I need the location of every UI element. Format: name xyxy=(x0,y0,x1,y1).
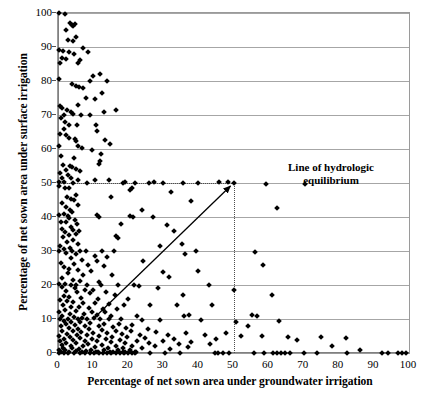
data-point xyxy=(150,214,156,220)
x-tick-label: 10 xyxy=(72,359,112,370)
data-point xyxy=(80,46,86,52)
data-point xyxy=(189,339,195,345)
data-point xyxy=(220,350,226,356)
data-point xyxy=(329,343,335,349)
y-tick-mark xyxy=(52,46,56,47)
data-point xyxy=(198,318,204,324)
y-tick-label: 90 xyxy=(22,41,52,52)
data-point xyxy=(116,235,122,241)
data-point xyxy=(91,315,97,321)
data-point xyxy=(165,332,171,338)
data-point xyxy=(79,257,85,263)
data-point xyxy=(63,250,69,256)
data-point xyxy=(104,254,110,260)
data-point xyxy=(101,109,107,115)
data-point xyxy=(171,336,177,342)
data-point xyxy=(403,350,409,356)
data-point xyxy=(142,335,148,341)
data-point xyxy=(73,231,79,237)
x-tick-label: 20 xyxy=(107,359,147,370)
data-point xyxy=(134,313,140,319)
data-point xyxy=(344,350,350,356)
data-point xyxy=(80,86,86,92)
data-point xyxy=(63,56,69,62)
data-point xyxy=(188,198,194,204)
data-point xyxy=(75,202,81,208)
data-point xyxy=(183,330,189,336)
data-point xyxy=(136,284,142,290)
data-point xyxy=(185,344,191,350)
data-point xyxy=(318,335,324,341)
data-point xyxy=(56,248,62,254)
x-axis-tick-labels: 0102030405060708090100 xyxy=(57,359,408,373)
data-point xyxy=(225,179,231,185)
data-point xyxy=(111,248,117,254)
y-axis-tick-labels: 0102030405060708090100 xyxy=(18,12,52,352)
y-tick-label: 30 xyxy=(22,245,52,256)
y-tick-label: 20 xyxy=(22,279,52,290)
x-tick-label: 60 xyxy=(248,359,288,370)
data-point xyxy=(76,241,82,247)
data-point xyxy=(79,145,85,151)
data-point xyxy=(121,302,127,308)
y-tick-label: 100 xyxy=(22,7,52,18)
y-tick-label: 40 xyxy=(22,211,52,222)
data-point xyxy=(75,267,81,273)
data-point xyxy=(85,50,91,56)
data-point xyxy=(177,350,183,356)
x-tick-label: 100 xyxy=(388,359,427,370)
data-point xyxy=(112,292,118,298)
data-point xyxy=(76,177,82,183)
data-point xyxy=(166,274,172,280)
data-point xyxy=(196,269,202,275)
data-point xyxy=(202,332,208,338)
data-point xyxy=(102,137,108,143)
data-point xyxy=(68,304,74,310)
data-point xyxy=(60,48,66,54)
data-point xyxy=(207,341,213,347)
data-point xyxy=(71,261,77,267)
data-point xyxy=(99,90,105,96)
data-point xyxy=(302,350,308,356)
data-point xyxy=(74,290,80,296)
data-point xyxy=(66,122,72,128)
data-point xyxy=(83,248,89,254)
data-point xyxy=(106,301,112,307)
data-point xyxy=(74,122,80,128)
y-tick-label: 70 xyxy=(22,109,52,120)
data-point xyxy=(58,154,64,160)
data-point xyxy=(109,273,115,279)
data-point xyxy=(130,214,136,220)
data-point xyxy=(107,141,113,147)
data-point xyxy=(294,337,300,343)
data-point xyxy=(254,313,260,319)
data-point xyxy=(269,292,275,298)
x-axis-title: Percentage of net sown area under ground… xyxy=(40,375,420,387)
data-point xyxy=(106,177,112,183)
data-point xyxy=(160,269,166,275)
data-point xyxy=(98,152,104,158)
data-point xyxy=(231,180,237,186)
data-point xyxy=(274,205,280,211)
data-point xyxy=(134,338,140,344)
plot-area: Line of hydrologic equilibrium xyxy=(57,12,410,354)
data-point xyxy=(168,189,174,195)
data-point xyxy=(76,102,82,108)
data-point xyxy=(104,78,110,84)
x-tick-label: 30 xyxy=(142,359,182,370)
data-point xyxy=(89,309,95,315)
data-point xyxy=(78,168,84,174)
data-point xyxy=(92,301,98,307)
data-point xyxy=(113,328,119,334)
data-point xyxy=(80,272,86,278)
y-tick-label: 50 xyxy=(22,177,52,188)
scatter-plot-figure: Percentage of net sown area under surfac… xyxy=(0,0,427,397)
data-point xyxy=(74,221,80,227)
data-point xyxy=(66,186,72,192)
data-point xyxy=(157,243,163,249)
data-point xyxy=(162,350,168,356)
x-tick-label: 50 xyxy=(213,359,253,370)
data-point xyxy=(85,262,91,268)
x-tick-label: 70 xyxy=(283,359,323,370)
data-point xyxy=(94,258,100,264)
